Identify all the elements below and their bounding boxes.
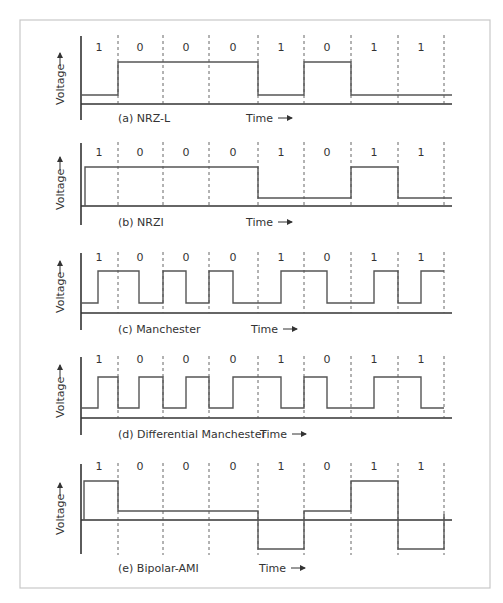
encoding-figure: 10 00 10 11 Voltage (a) NRZ-L Time 10 00… xyxy=(0,0,503,603)
time-axis-label: Time xyxy=(250,323,278,336)
panel-label: (e) Bipolar-AMI xyxy=(118,562,199,575)
time-axis-label: Time xyxy=(245,216,273,229)
svg-text:1: 1 xyxy=(371,146,378,159)
svg-text:0: 0 xyxy=(324,353,331,366)
svg-text:0: 0 xyxy=(230,353,237,366)
svg-text:0: 0 xyxy=(183,353,190,366)
svg-text:1: 1 xyxy=(371,353,378,366)
svg-text:1: 1 xyxy=(278,353,285,366)
svg-text:0: 0 xyxy=(230,146,237,159)
signal-waveform xyxy=(84,481,444,549)
svg-text:0: 0 xyxy=(137,251,144,264)
svg-text:0: 0 xyxy=(183,460,190,473)
svg-text:0: 0 xyxy=(324,251,331,264)
bit-labels: 10 00 10 11 xyxy=(96,251,425,264)
svg-text:1: 1 xyxy=(371,460,378,473)
voltage-axis-label: Voltage xyxy=(54,64,67,105)
svg-text:0: 0 xyxy=(183,251,190,264)
svg-text:1: 1 xyxy=(418,460,425,473)
signal-waveform xyxy=(81,62,452,95)
svg-text:1: 1 xyxy=(278,41,285,54)
svg-text:1: 1 xyxy=(96,353,103,366)
svg-text:0: 0 xyxy=(230,460,237,473)
svg-text:0: 0 xyxy=(324,41,331,54)
bit-labels: 10 00 10 11 xyxy=(96,41,425,54)
svg-text:1: 1 xyxy=(418,146,425,159)
svg-text:1: 1 xyxy=(418,251,425,264)
voltage-axis-label: Voltage xyxy=(54,377,67,418)
svg-text:0: 0 xyxy=(324,460,331,473)
bit-labels: 10 00 10 11 xyxy=(96,460,425,473)
signal-waveform xyxy=(85,167,452,206)
svg-text:0: 0 xyxy=(137,41,144,54)
voltage-axis-label: Voltage xyxy=(54,272,67,313)
time-axis-label: Time xyxy=(259,428,287,441)
bit-labels: 10 00 10 11 xyxy=(96,353,425,366)
signal-waveform xyxy=(81,377,444,408)
panel-label: (c) Manchester xyxy=(118,323,201,336)
svg-text:0: 0 xyxy=(230,251,237,264)
svg-text:0: 0 xyxy=(137,146,144,159)
svg-text:1: 1 xyxy=(96,251,103,264)
svg-text:1: 1 xyxy=(96,146,103,159)
figure-frame xyxy=(20,20,490,588)
svg-text:0: 0 xyxy=(183,146,190,159)
voltage-axis-label: Voltage xyxy=(54,169,67,210)
svg-text:1: 1 xyxy=(371,41,378,54)
panel-bipolar-ami: 10 00 10 11 Voltage (e) Bipolar-AMI Time xyxy=(54,460,452,575)
svg-text:1: 1 xyxy=(278,251,285,264)
svg-text:0: 0 xyxy=(183,41,190,54)
time-axis-label: Time xyxy=(245,112,273,125)
panel-differential-manchester: 10 00 10 11 Voltage (d) Differential Man… xyxy=(54,353,452,441)
svg-text:1: 1 xyxy=(96,41,103,54)
svg-text:1: 1 xyxy=(278,460,285,473)
signal-waveform xyxy=(81,271,444,303)
svg-text:1: 1 xyxy=(418,353,425,366)
svg-text:1: 1 xyxy=(371,251,378,264)
panel-nrzi: 10 00 10 11 Voltage (b) NRZI Time xyxy=(54,142,452,229)
svg-text:1: 1 xyxy=(418,41,425,54)
panel-label: (d) Differential Manchester xyxy=(118,428,266,441)
bit-labels: 10 00 10 11 xyxy=(96,146,425,159)
svg-text:0: 0 xyxy=(137,353,144,366)
panel-manchester: 10 00 10 11 Voltage (c) Manchester Time xyxy=(54,251,452,336)
svg-text:1: 1 xyxy=(278,146,285,159)
voltage-axis-label: Voltage xyxy=(54,494,67,535)
time-axis-label: Time xyxy=(258,562,286,575)
bit-dividers xyxy=(118,463,444,555)
svg-text:1: 1 xyxy=(96,460,103,473)
panel-nrz-l: 10 00 10 11 Voltage (a) NRZ-L Time xyxy=(54,35,452,125)
svg-text:0: 0 xyxy=(324,146,331,159)
panel-label: (a) NRZ-L xyxy=(118,112,171,125)
svg-text:0: 0 xyxy=(230,41,237,54)
panel-label: (b) NRZI xyxy=(118,216,164,229)
svg-text:0: 0 xyxy=(137,460,144,473)
